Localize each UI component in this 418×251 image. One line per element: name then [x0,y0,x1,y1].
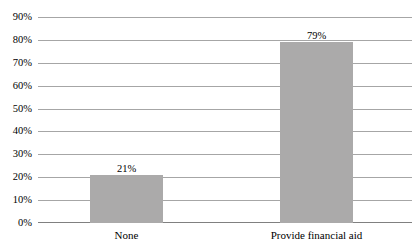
y-axis-tick-label: 40% [0,126,32,137]
plot-area [38,17,412,223]
y-axis-tick-label: 0% [0,218,32,229]
x-axis-category-label-provide-financial-aid: Provide financial aid [248,230,385,241]
gridline-80 [38,40,412,41]
y-axis-tick-label: 90% [0,12,32,23]
bar-none[interactable] [90,175,163,223]
gridline-90 [38,17,412,18]
gridline-30 [38,154,412,155]
bar-value-label-none: 21% [90,164,163,175]
gridline-50 [38,109,412,110]
bar-value-label-provide-financial-aid: 79% [280,31,353,42]
y-axis-tick-label: 80% [0,35,32,46]
y-axis-tick-label: 20% [0,172,32,183]
gridline-60 [38,86,412,87]
gridline-40 [38,131,412,132]
y-axis-tick-label: 50% [0,103,32,114]
y-axis-tick-label: 60% [0,80,32,91]
x-axis-category-label-none: None [71,230,182,241]
bar-chart: 90% 80% 70% 60% 50% 40% 30% 20% 10% 0% 2… [0,0,418,251]
bar-provide-financial-aid[interactable] [280,42,353,223]
gridline-70 [38,63,412,64]
y-axis-tick-label: 30% [0,149,32,160]
y-axis-tick-label: 10% [0,195,32,206]
y-axis-tick-label: 70% [0,58,32,69]
